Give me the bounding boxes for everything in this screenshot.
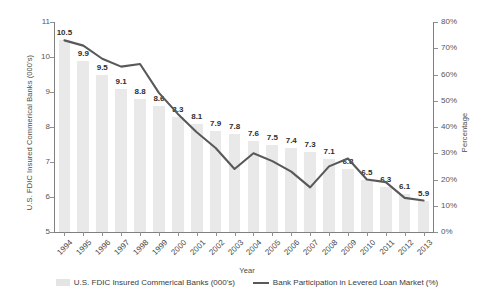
y-right-tick-label-70: 70% xyxy=(441,43,481,52)
x-tick-1997 xyxy=(121,232,122,236)
x-axis-title: Year xyxy=(0,266,494,275)
y-right-tick-20 xyxy=(434,180,438,181)
x-tick-1994 xyxy=(64,232,65,236)
legend-label-line: Bank Participation in Levered Loan Marke… xyxy=(273,278,438,287)
x-tick-2007 xyxy=(310,232,311,236)
y-left-tick-label-5: 5 xyxy=(10,227,50,236)
y-right-tick-10 xyxy=(434,206,438,207)
y-right-tick-50 xyxy=(434,101,438,102)
x-tick-2013 xyxy=(424,232,425,236)
y-left-tick-8 xyxy=(50,127,54,128)
x-tick-2010 xyxy=(367,232,368,236)
y-left-tick-7 xyxy=(50,162,54,163)
x-tick-1996 xyxy=(102,232,103,236)
y-left-tick-6 xyxy=(50,197,54,198)
y-left-tick-label-9: 9 xyxy=(10,87,50,96)
x-tick-2011 xyxy=(386,232,387,236)
y-left-tick-label-11: 11 xyxy=(10,17,50,26)
x-tick-1995 xyxy=(83,232,84,236)
y-right-tick-label-60: 60% xyxy=(441,70,481,79)
y-right-tick-label-30: 30% xyxy=(441,148,481,157)
y-left-tick-11 xyxy=(50,22,54,23)
x-tick-2006 xyxy=(291,232,292,236)
y-right-tick-label-40: 40% xyxy=(441,122,481,131)
plot-area: 10.59.99.59.18.88.68.38.17.97.87.67.57.4… xyxy=(55,22,433,232)
y-right-tick-label-10: 10% xyxy=(441,201,481,210)
y-left-tick-9 xyxy=(50,92,54,93)
y-right-tick-70 xyxy=(434,48,438,49)
y-left-tick-label-10: 10 xyxy=(10,52,50,61)
y-left-tick-label-8: 8 xyxy=(10,122,50,131)
chart-legend: U.S. FDIC Insured Commerical Banks (000'… xyxy=(0,278,494,287)
legend-item-bars[interactable]: U.S. FDIC Insured Commerical Banks (000'… xyxy=(56,278,235,287)
legend-label-bars: U.S. FDIC Insured Commerical Banks (000'… xyxy=(74,278,235,287)
x-tick-1998 xyxy=(140,232,141,236)
y-right-tick-label-80: 80% xyxy=(441,17,481,26)
y-left-tick-label-7: 7 xyxy=(10,157,50,166)
bar-swatch-icon xyxy=(56,279,70,286)
x-tick-2012 xyxy=(405,232,406,236)
x-tick-2004 xyxy=(253,232,254,236)
y-right-tick-60 xyxy=(434,75,438,76)
y-axis-right-title: Percentage xyxy=(460,78,469,188)
line-swatch-icon xyxy=(253,282,269,284)
y-left-tick-10 xyxy=(50,57,54,58)
x-tick-2001 xyxy=(197,232,198,236)
y-right-tick-80 xyxy=(434,22,438,23)
x-tick-2000 xyxy=(178,232,179,236)
y-right-tick-0 xyxy=(434,232,438,233)
line-series-layer xyxy=(55,22,433,233)
x-tick-2008 xyxy=(329,232,330,236)
chart-container: U.S. FDIC Insured Commerical Banks (000'… xyxy=(0,0,494,298)
y-left-tick-label-6: 6 xyxy=(10,192,50,201)
x-tick-2003 xyxy=(235,232,236,236)
y-right-tick-40 xyxy=(434,127,438,128)
x-tick-2002 xyxy=(216,232,217,236)
y-right-tick-label-20: 20% xyxy=(441,175,481,184)
x-tick-1999 xyxy=(159,232,160,236)
y-right-tick-label-50: 50% xyxy=(441,96,481,105)
y-left-tick-5 xyxy=(50,232,54,233)
bank-participation-line xyxy=(64,40,423,200)
y-right-tick-label-0: 0% xyxy=(441,227,481,236)
x-tick-2005 xyxy=(272,232,273,236)
legend-item-line[interactable]: Bank Participation in Levered Loan Marke… xyxy=(253,278,438,287)
y-right-tick-30 xyxy=(434,153,438,154)
x-tick-2009 xyxy=(348,232,349,236)
